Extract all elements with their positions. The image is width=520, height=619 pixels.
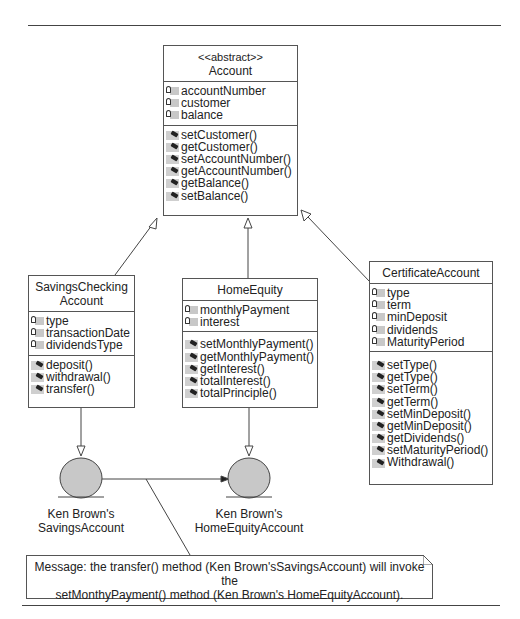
method-operation-icon xyxy=(372,445,386,455)
operation-row: setBalance() xyxy=(166,190,295,202)
class-savings-header: SavingsChecking Account xyxy=(29,276,134,312)
method-operation-icon xyxy=(31,384,45,394)
operation-row: Withdrawal() xyxy=(372,456,490,468)
lock-attribute-icon xyxy=(372,325,386,335)
class-name: Account xyxy=(166,64,295,78)
method-operation-icon xyxy=(185,388,199,398)
instance-arrowhead-icon xyxy=(77,446,85,456)
method-operation-icon xyxy=(166,142,180,152)
method-operation-icon xyxy=(166,178,180,188)
generalization-savings-line xyxy=(115,225,152,275)
lock-attribute-icon xyxy=(372,337,386,347)
attribute-name: dividends xyxy=(387,324,438,336)
method-operation-icon xyxy=(166,191,180,201)
attribute-name: dividendsType xyxy=(46,339,123,351)
object-label-line1: Ken Brown's xyxy=(189,507,309,521)
operation-name: setMonthlyPayment() xyxy=(200,338,313,350)
operation-name: getTerm() xyxy=(387,396,438,408)
operation-row: getBalance() xyxy=(166,177,295,189)
home-object-circle xyxy=(228,458,270,498)
method-operation-icon xyxy=(185,364,199,374)
operation-name: deposit() xyxy=(46,359,93,371)
class-home-header: HomeEquity xyxy=(183,279,317,301)
stereotype-label: <<abstract>> xyxy=(166,50,295,64)
operation-row: setMonthlyPayment() xyxy=(185,338,315,350)
method-operation-icon xyxy=(166,130,180,140)
operation-row: getMonthlyPayment() xyxy=(185,351,315,363)
operation-name: getBalance() xyxy=(181,177,249,189)
attributes-section: type term minDeposit dividends MaturityP… xyxy=(370,284,492,351)
operation-row: transfer() xyxy=(31,383,132,395)
operation-row: setTerm() xyxy=(372,383,490,395)
method-operation-icon xyxy=(372,384,386,394)
attribute-row: dividends xyxy=(372,324,490,336)
attribute-name: interest xyxy=(200,316,239,328)
attribute-name: balance xyxy=(181,109,223,121)
attribute-row: dividendsType xyxy=(31,339,132,351)
method-operation-icon xyxy=(372,360,386,370)
operation-name: setBalance() xyxy=(181,190,248,202)
savings-object-circle xyxy=(60,458,102,498)
note-fold-corner xyxy=(423,555,433,565)
attribute-row: balance xyxy=(166,109,295,121)
attribute-name: MaturityPeriod xyxy=(387,336,464,348)
class-savings-checking-account[interactable]: SavingsChecking Account type transaction… xyxy=(28,275,135,408)
instance-arrowhead-icon xyxy=(245,446,253,456)
operation-name: setTerm() xyxy=(387,383,438,395)
note-line1: Message: the transfer() method (Ken Brow… xyxy=(33,560,426,588)
method-operation-icon xyxy=(31,360,45,370)
generalization-arrowhead-icon xyxy=(301,210,311,221)
class-account-header: <<abstract>> Account xyxy=(164,46,297,82)
lock-attribute-icon xyxy=(166,98,180,108)
class-cert-header: CertificateAccount xyxy=(370,262,492,284)
operation-name: Withdrawal() xyxy=(387,456,454,468)
method-operation-icon xyxy=(185,339,199,349)
method-operation-icon xyxy=(31,372,45,382)
generalization-arrowhead-icon xyxy=(149,218,157,229)
method-operation-icon xyxy=(185,352,199,362)
attributes-section: accountNumber customer balance xyxy=(164,82,297,125)
lock-attribute-icon xyxy=(372,312,386,322)
operations-section: deposit() withdrawal() transfer() xyxy=(29,355,134,399)
operation-row: setCustomer() xyxy=(166,129,295,141)
class-certificate-account[interactable]: CertificateAccount type term minDeposit … xyxy=(369,261,493,485)
operations-section: setMonthlyPayment() getMonthlyPayment() … xyxy=(183,331,317,402)
lock-attribute-icon xyxy=(185,305,199,315)
attributes-section: monthlyPayment interest xyxy=(183,301,317,331)
attribute-row: interest xyxy=(185,316,315,328)
object-label-line2: HomeEquityAccount xyxy=(189,521,309,535)
lock-attribute-icon xyxy=(31,316,45,326)
method-operation-icon xyxy=(185,376,199,386)
operation-row: totalPrinciple() xyxy=(185,387,315,399)
generalization-cert-line xyxy=(308,217,370,282)
operations-section: setCustomer() getCustomer() setAccountNu… xyxy=(164,125,297,205)
lock-attribute-icon xyxy=(185,317,199,327)
lock-attribute-icon xyxy=(372,300,386,310)
attribute-row: minDeposit xyxy=(372,311,490,323)
method-operation-icon xyxy=(372,421,386,431)
lock-attribute-icon xyxy=(31,328,45,338)
lock-attribute-icon xyxy=(166,86,180,96)
operation-row: deposit() xyxy=(31,359,132,371)
note-line2: setMonthyPayment() method (Ken Brown's H… xyxy=(33,588,426,602)
attribute-row: MaturityPeriod xyxy=(372,336,490,348)
lock-attribute-icon xyxy=(31,340,45,350)
message-note: Message: the transfer() method (Ken Brow… xyxy=(26,555,433,599)
attributes-section: type transactionDate dividendsType xyxy=(29,312,134,355)
generalization-arrowhead-icon xyxy=(244,218,252,228)
method-operation-icon xyxy=(372,409,386,419)
operation-name: getMonthlyPayment() xyxy=(200,351,314,363)
method-operation-icon xyxy=(372,372,386,382)
home-object-label: Ken Brown's HomeEquityAccount xyxy=(189,507,309,535)
object-label-line1: Ken Brown's xyxy=(21,507,141,521)
class-home-equity[interactable]: HomeEquity monthlyPayment interest setMo… xyxy=(182,278,318,408)
class-account[interactable]: <<abstract>> Account accountNumber custo… xyxy=(163,45,298,216)
method-operation-icon xyxy=(372,397,386,407)
savings-object-label: Ken Brown's SavingsAccount xyxy=(21,507,141,535)
operation-row: getTerm() xyxy=(372,396,490,408)
class-name: HomeEquity xyxy=(185,283,315,297)
class-name: CertificateAccount xyxy=(372,266,490,280)
class-name-line1: SavingsChecking xyxy=(31,280,132,294)
method-operation-icon xyxy=(166,166,180,176)
method-operation-icon xyxy=(372,433,386,443)
